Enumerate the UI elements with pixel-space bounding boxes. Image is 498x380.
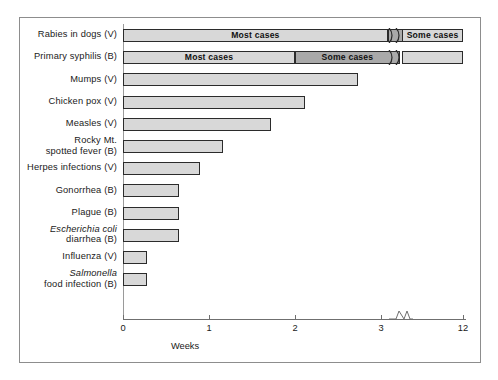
- y-axis-label-line: Influenza (V): [62, 251, 117, 262]
- x-axis-tick: [123, 315, 124, 320]
- bar-segment-label: Most cases: [124, 52, 294, 63]
- y-axis-label-line: spotted fever (B): [46, 146, 117, 157]
- bar-segment-label: Some cases: [403, 30, 462, 41]
- x-axis-tick: [295, 315, 296, 320]
- bar-segment-some-cases: Some cases: [402, 29, 463, 42]
- bar-segment-label: Some cases: [296, 52, 399, 63]
- y-axis-label: Plague (B): [72, 207, 117, 218]
- bar-segment-bar: [123, 140, 223, 153]
- bar-segment-bar: [123, 273, 147, 286]
- bar-segment-label: Most cases: [124, 30, 387, 41]
- bar-break-icon: [387, 28, 400, 43]
- x-axis-tick-label: 12: [458, 323, 468, 333]
- x-axis-tick-label: 1: [206, 323, 211, 333]
- bar-segment-most-cases: Most cases: [123, 51, 295, 64]
- y-axis-label-line: Chicken pox (V): [49, 96, 117, 107]
- bar-segment-bar: [123, 118, 271, 131]
- y-axis-label-line: food infection (B): [44, 279, 117, 290]
- y-axis-label-line: Plague (B): [72, 207, 117, 218]
- y-axis-label-line: Gonorrhea (B): [56, 185, 117, 196]
- y-axis-label: Escherichia colidiarrhea (B): [50, 224, 117, 245]
- y-axis-label: Gonorrhea (B): [56, 185, 117, 196]
- y-axis-label: Rocky Mt.spotted fever (B): [46, 135, 117, 156]
- x-axis-title-text: Weeks: [171, 341, 199, 351]
- y-axis-label-line: Rabies in dogs (V): [38, 29, 117, 40]
- y-axis-label: Chicken pox (V): [49, 96, 117, 107]
- x-axis-tick: [209, 315, 210, 320]
- x-axis-break-icon: [389, 310, 413, 320]
- chart-plot-area: 012312 Rabies in dogs (V)Primary syphili…: [20, 18, 482, 364]
- y-axis-label-line: Rocky Mt.: [46, 135, 117, 146]
- y-axis-label-line: Primary syphilis (B): [34, 51, 117, 62]
- y-axis-label-line: Salmonella: [44, 268, 117, 279]
- y-axis-label-line: diarrhea (B): [50, 234, 117, 245]
- y-axis-label: Primary syphilis (B): [34, 51, 117, 62]
- bar-segment-bar: [123, 73, 358, 86]
- bar-segment-bar: [123, 229, 179, 242]
- bar-segment-bar: [123, 251, 147, 264]
- y-axis-label-line: Measles (V): [66, 118, 117, 129]
- y-axis-label-line: Herpes infections (V): [27, 162, 117, 173]
- bar-segment-bar: [123, 96, 305, 109]
- bar-segment-bar: [123, 162, 200, 175]
- bar-segment-tail: [402, 51, 463, 64]
- bar-segment-some-cases: Some cases: [295, 51, 400, 64]
- y-axis-label: Influenza (V): [62, 251, 117, 262]
- y-axis-label: Mumps (V): [70, 74, 117, 85]
- bar-break-icon: [387, 50, 400, 65]
- x-axis-tick: [381, 315, 382, 320]
- bar-segment-most-cases: Most cases: [123, 29, 388, 42]
- bar-segment-bar: [123, 207, 179, 220]
- x-axis-title: Weeks: [20, 341, 482, 351]
- x-axis-tick-label: 0: [120, 323, 125, 333]
- y-axis-label: Herpes infections (V): [27, 162, 117, 173]
- chart-figure-frame: 012312 Rabies in dogs (V)Primary syphili…: [19, 17, 481, 363]
- bar-segment-bar: [123, 184, 179, 197]
- y-axis-label: Measles (V): [66, 118, 117, 129]
- y-axis-label-line: Escherichia coli: [50, 224, 117, 235]
- y-axis-label: Salmonellafood infection (B): [44, 268, 117, 289]
- y-axis-label-line: Mumps (V): [70, 74, 117, 85]
- x-axis-tick: [463, 315, 464, 320]
- y-axis-label: Rabies in dogs (V): [38, 29, 117, 40]
- x-axis-tick-label: 2: [292, 323, 297, 333]
- x-axis-tick-label: 3: [378, 323, 383, 333]
